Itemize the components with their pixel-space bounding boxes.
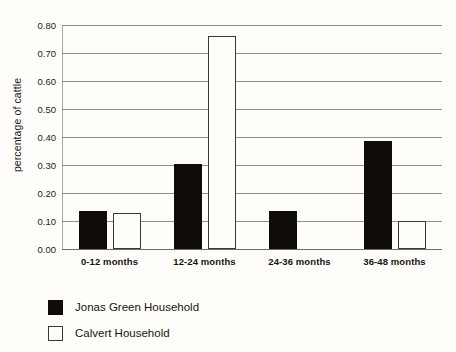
bar bbox=[364, 141, 392, 249]
y-tick-label: 0.40 bbox=[22, 132, 56, 143]
legend-item: Jonas Green Household bbox=[48, 296, 348, 318]
bar bbox=[79, 211, 107, 249]
gridline bbox=[62, 109, 442, 110]
legend-label: Calvert Household bbox=[75, 327, 170, 339]
y-tick-label: 0.70 bbox=[22, 48, 56, 59]
y-tick-label: 0.50 bbox=[22, 104, 56, 115]
gridline bbox=[62, 137, 442, 138]
gridline bbox=[62, 81, 442, 82]
chart-legend: Jonas Green HouseholdCalvert Household bbox=[48, 296, 348, 348]
x-axis-category-labels: 0-12 months12-24 months24-36 months36-48… bbox=[62, 256, 442, 274]
legend-item: Calvert Household bbox=[48, 322, 348, 344]
bar bbox=[113, 213, 141, 249]
x-tick-label: 12-24 months bbox=[173, 256, 235, 267]
y-tick-label: 0.60 bbox=[22, 76, 56, 87]
x-tick-label: 36-48 months bbox=[363, 256, 425, 267]
bar bbox=[208, 36, 236, 249]
bar-chart: percentage of cattle 0.000.100.200.300.4… bbox=[0, 0, 456, 352]
y-tick-label: 0.10 bbox=[22, 216, 56, 227]
gridline bbox=[62, 25, 442, 26]
x-tick-label: 24-36 months bbox=[268, 256, 330, 267]
bar bbox=[269, 211, 297, 249]
y-tick-label: 0.20 bbox=[22, 188, 56, 199]
axis-baseline bbox=[62, 249, 442, 250]
y-tick-label: 0.30 bbox=[22, 160, 56, 171]
gridline bbox=[62, 53, 442, 54]
bar bbox=[398, 221, 426, 249]
x-tick-label: 0-12 months bbox=[81, 256, 138, 267]
legend-swatch bbox=[48, 300, 63, 315]
bar bbox=[174, 164, 202, 249]
legend-swatch bbox=[48, 326, 63, 341]
y-axis-tick-labels: 0.000.100.200.300.400.500.600.700.80 bbox=[16, 25, 56, 249]
legend-label: Jonas Green Household bbox=[75, 301, 199, 313]
y-tick-label: 0.80 bbox=[22, 20, 56, 31]
y-tick-label: 0.00 bbox=[22, 244, 56, 255]
plot-area bbox=[62, 25, 442, 249]
